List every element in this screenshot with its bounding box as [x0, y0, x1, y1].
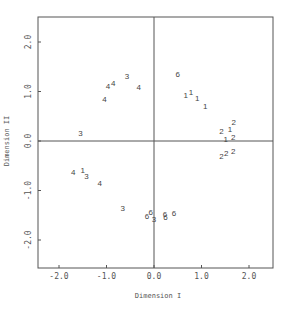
point-label-group-3: 3 — [120, 204, 125, 213]
x-tick-label: 1.0 — [194, 272, 209, 281]
y-tick-label: -2.0 — [24, 230, 33, 249]
plot-frame — [38, 17, 273, 268]
point-label-group-4: 4 — [102, 95, 107, 104]
x-axis-ticks: -2.0-1.00.01.02.0 — [49, 265, 256, 281]
y-tick-label: 2.0 — [24, 35, 33, 50]
x-tick-label: 0.0 — [147, 272, 162, 281]
point-label-group-4: 4 — [111, 79, 116, 88]
point-label-group-1: 1 — [189, 88, 194, 97]
reference-lines — [38, 17, 273, 268]
point-label-group-6: 6 — [163, 213, 168, 222]
x-tick-label: 2.0 — [242, 272, 257, 281]
point-label-group-4: 4 — [71, 168, 76, 177]
point-label-group-3: 3 — [152, 215, 157, 224]
y-tick-label: -1.0 — [24, 181, 33, 200]
point-label-group-3: 3 — [78, 129, 83, 138]
mds-scatter-plot: -2.0-1.00.01.02.0 -2.0-1.00.01.02.0 3444… — [0, 0, 291, 320]
x-tick-label: -1.0 — [97, 272, 116, 281]
point-label-group-1: 1 — [223, 135, 228, 144]
point-label-group-1: 1 — [203, 102, 208, 111]
x-axis-title: Dimension I — [135, 292, 181, 300]
point-label-group-2: 2 — [224, 149, 229, 158]
point-label-group-2: 2 — [231, 133, 236, 142]
point-label-group-3: 3 — [84, 172, 89, 181]
point-label-group-2: 2 — [231, 147, 236, 156]
y-tick-label: 1.0 — [24, 84, 33, 99]
point-label-group-1: 1 — [195, 94, 200, 103]
y-tick-label: 0.0 — [24, 134, 33, 149]
point-label-group-3: 3 — [125, 72, 130, 81]
point-label-group-4: 4 — [98, 179, 103, 188]
y-axis-title: Dimension II — [3, 116, 11, 167]
point-label-group-6: 6 — [172, 209, 177, 218]
point-label-group-6: 6 — [176, 70, 181, 79]
point-label-group-4: 4 — [137, 83, 142, 92]
x-tick-label: -2.0 — [49, 272, 68, 281]
point-label-group-2: 2 — [232, 118, 237, 127]
